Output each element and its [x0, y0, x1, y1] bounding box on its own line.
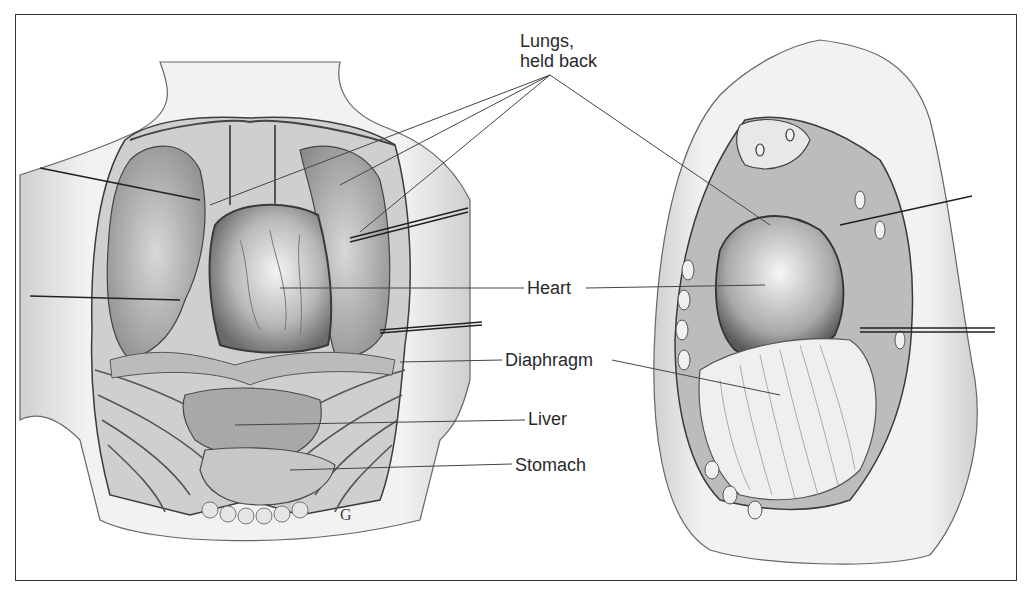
label-lungs-line2: held back [520, 51, 597, 71]
label-diaphragm: Diaphragm [503, 350, 595, 370]
side-heart [716, 216, 844, 358]
front-view-torso: G [20, 62, 482, 541]
side-diaphragm [699, 339, 876, 500]
label-heart: Heart [525, 278, 573, 298]
label-stomach: Stomach [513, 455, 588, 475]
heart [210, 205, 332, 353]
side-view-torso [654, 40, 995, 564]
label-lungs-line1: Lungs, [520, 31, 597, 51]
label-lungs: Lungs, held back [518, 31, 599, 71]
artist-signature: G [340, 506, 352, 523]
label-liver: Liver [526, 409, 569, 429]
anatomy-illustration: G [0, 0, 1030, 596]
